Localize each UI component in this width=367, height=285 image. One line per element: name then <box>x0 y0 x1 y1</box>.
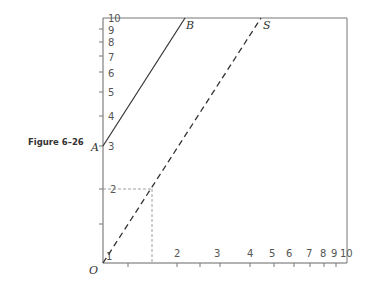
x-tick-10: 10 <box>340 248 353 259</box>
x-tick-9: 9 <box>331 248 337 259</box>
y-tick-7: 7 <box>108 52 114 63</box>
y-tick-6: 6 <box>108 68 114 79</box>
x-tick-3: 3 <box>214 248 220 259</box>
x-tick-5: 5 <box>269 248 275 259</box>
y-tick-10: 10 <box>108 13 121 24</box>
y-tick-3: 3 <box>108 141 114 152</box>
point-O-label: O <box>89 264 98 277</box>
line-OS <box>103 18 261 263</box>
y-tick-4: 4 <box>108 111 114 122</box>
x-tick-6: 6 <box>286 248 292 259</box>
y-tick-5: 5 <box>108 87 114 98</box>
x-tick-2: 2 <box>174 248 180 259</box>
x-tick-8: 8 <box>320 248 326 259</box>
y-tick-2: 2 <box>110 184 116 195</box>
x-tick-7: 7 <box>306 248 312 259</box>
y-tick-8: 8 <box>108 37 114 48</box>
y-tick-9: 9 <box>108 25 114 36</box>
line-AB <box>103 18 185 146</box>
x-ticks <box>128 263 336 267</box>
point-A-label: A <box>90 141 99 154</box>
y-ticks <box>99 29 103 224</box>
log-log-plot: 1 2 3 4 5 6 7 8 9 10 2 3 4 5 6 7 8 9 10 … <box>0 0 367 285</box>
point-S-label: S <box>263 19 271 32</box>
point-B-label: B <box>185 19 194 32</box>
x-tick-4: 4 <box>247 248 253 259</box>
